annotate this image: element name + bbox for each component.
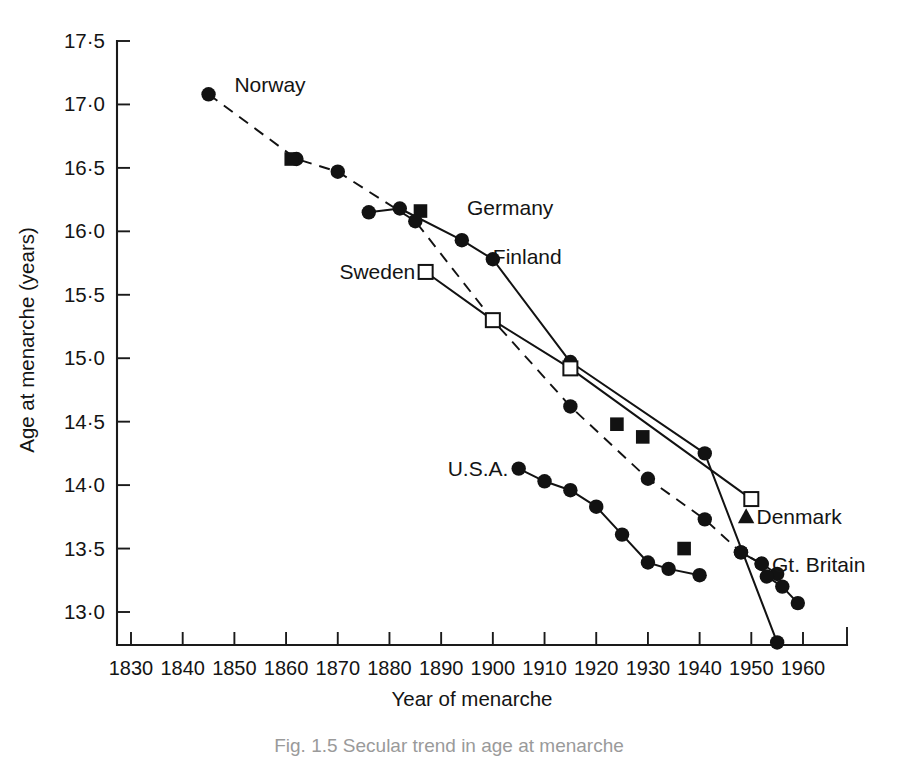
menarche-trend-chart: 13·013·514·014·515·015·516·016·517·017·5… <box>0 0 898 758</box>
marker-u-s-a <box>641 555 655 569</box>
x-tick-label: 1950 <box>729 657 774 679</box>
series-label-gt-britain: Gt. Britain <box>772 553 865 576</box>
marker-germany <box>636 430 650 444</box>
y-tick-label: 17·5 <box>64 29 105 52</box>
x-tick-label: 1830 <box>109 657 154 679</box>
x-axis-ticks: 1830184018501860187018801890190019101920… <box>109 632 826 679</box>
y-axis-ticks: 13·013·514·014·515·015·516·016·517·017·5 <box>64 29 130 623</box>
series-label-sweden: Sweden <box>339 260 415 283</box>
marker-u-s-a <box>511 461 525 475</box>
y-tick-label: 17·0 <box>64 92 105 115</box>
marker-finland <box>455 233 469 247</box>
series-markers <box>201 87 805 650</box>
marker-u-s-a <box>563 483 577 497</box>
marker-u-s-a <box>589 499 603 513</box>
figure-caption: Fig. 1.5 Secular trend in age at menarch… <box>274 735 624 756</box>
marker-finland <box>770 635 784 649</box>
marker-finland <box>362 205 376 219</box>
marker-gt-britain <box>754 557 768 571</box>
marker-gt-britain <box>791 596 805 610</box>
y-tick-label: 16·0 <box>64 219 105 242</box>
marker-sweden <box>486 313 500 327</box>
marker-norway <box>698 512 712 526</box>
figure-caption-group: Fig. 1.5 Secular trend in age at menarch… <box>274 735 624 756</box>
x-tick-label: 1890 <box>419 657 464 679</box>
marker-u-s-a <box>692 568 706 582</box>
marker-germany <box>610 417 624 431</box>
x-tick-label: 1920 <box>574 657 619 679</box>
x-tick-label: 1870 <box>316 657 361 679</box>
marker-germany <box>677 542 691 556</box>
marker-sweden <box>563 361 577 375</box>
marker-finland <box>393 201 407 215</box>
x-tick-label: 1880 <box>367 657 412 679</box>
marker-norway <box>201 87 215 101</box>
x-tick-label: 1910 <box>522 657 567 679</box>
x-axis-title: Year of menarche <box>391 687 552 710</box>
y-tick-label: 14·5 <box>64 410 105 433</box>
x-tick-label: 1840 <box>160 657 205 679</box>
series-label-u-s-a: U.S.A. <box>448 457 509 480</box>
marker-sweden <box>419 265 433 279</box>
series-label-norway: Norway <box>234 73 306 96</box>
marker-finland <box>698 446 712 460</box>
series-label-finland: Finland <box>493 245 562 268</box>
y-tick-label: 13·5 <box>64 537 105 560</box>
marker-gt-britain <box>775 579 789 593</box>
y-axis-title: Age at menarche (years) <box>15 227 38 453</box>
x-tick-label: 1900 <box>471 657 516 679</box>
marker-denmark <box>738 508 754 523</box>
figure-root: 13·013·514·014·515·015·516·016·517·017·5… <box>0 0 898 758</box>
marker-u-s-a <box>615 527 629 541</box>
y-tick-label: 13·0 <box>64 600 105 623</box>
series-lines <box>209 94 798 642</box>
x-tick-label: 1960 <box>781 657 826 679</box>
marker-u-s-a <box>537 474 551 488</box>
y-tick-label: 16·5 <box>64 156 105 179</box>
marker-germany <box>284 152 298 166</box>
series-label-germany: Germany <box>467 196 554 219</box>
x-tick-label: 1940 <box>677 657 722 679</box>
x-tick-label: 1860 <box>264 657 309 679</box>
marker-germany <box>414 204 428 218</box>
y-tick-label: 15·0 <box>64 346 105 369</box>
marker-norway <box>641 472 655 486</box>
marker-norway <box>331 164 345 178</box>
series-line-norway <box>209 94 778 574</box>
marker-u-s-a <box>661 562 675 576</box>
marker-norway <box>563 399 577 413</box>
series-labels: NorwayGermanyFinlandSwedenDenmarkU.S.A.G… <box>234 73 865 576</box>
y-tick-label: 15·5 <box>64 283 105 306</box>
marker-gt-britain <box>734 545 748 559</box>
x-tick-label: 1930 <box>626 657 671 679</box>
y-tick-label: 14·0 <box>64 473 105 496</box>
series-label-denmark: Denmark <box>756 505 842 528</box>
x-tick-label: 1850 <box>212 657 257 679</box>
